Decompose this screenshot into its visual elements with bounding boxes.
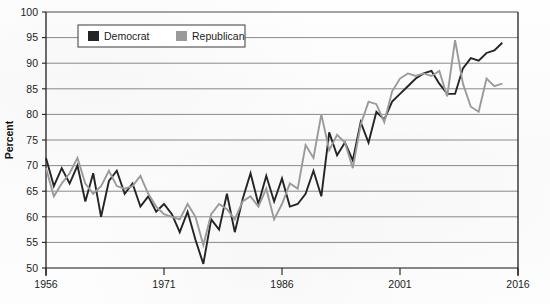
line-chart: 5055606570758085909510019561971198620012…: [0, 0, 550, 304]
y-tick-label-80: 80: [26, 108, 38, 120]
y-tick-label-60: 60: [26, 211, 38, 223]
y-tick-label-50: 50: [26, 262, 38, 274]
y-tick-label-85: 85: [26, 83, 38, 95]
x-tick-label-1986: 1986: [270, 278, 294, 290]
series-line-democrat: [46, 43, 502, 264]
x-tick-label-2016: 2016: [506, 278, 530, 290]
legend-label-republican: Republican: [192, 30, 245, 42]
legend-swatch-republican: [176, 31, 187, 41]
chart-legend: DemocratRepublican: [78, 25, 245, 47]
y-axis-ticks: 50556065707580859095100: [20, 6, 46, 274]
y-axis-title: Percent: [3, 120, 15, 159]
chart-figure: 5055606570758085909510019561971198620012…: [0, 0, 550, 304]
x-tick-label-2001: 2001: [388, 278, 412, 290]
x-axis-ticks: 19561971198620012016: [34, 268, 530, 290]
y-tick-label-55: 55: [26, 236, 38, 248]
series-line-republican: [46, 40, 502, 245]
legend-label-democrat: Democrat: [104, 30, 150, 42]
x-tick-label-1971: 1971: [152, 278, 176, 290]
y-tick-label-100: 100: [20, 6, 38, 18]
data-series-group: [46, 40, 502, 264]
y-tick-label-90: 90: [26, 57, 38, 69]
y-tick-label-65: 65: [26, 185, 38, 197]
legend-swatch-democrat: [88, 31, 99, 41]
gridlines-group: [46, 12, 518, 268]
y-tick-label-75: 75: [26, 134, 38, 146]
y-tick-label-95: 95: [26, 31, 38, 43]
x-tick-label-1956: 1956: [34, 278, 58, 290]
y-tick-label-70: 70: [26, 159, 38, 171]
